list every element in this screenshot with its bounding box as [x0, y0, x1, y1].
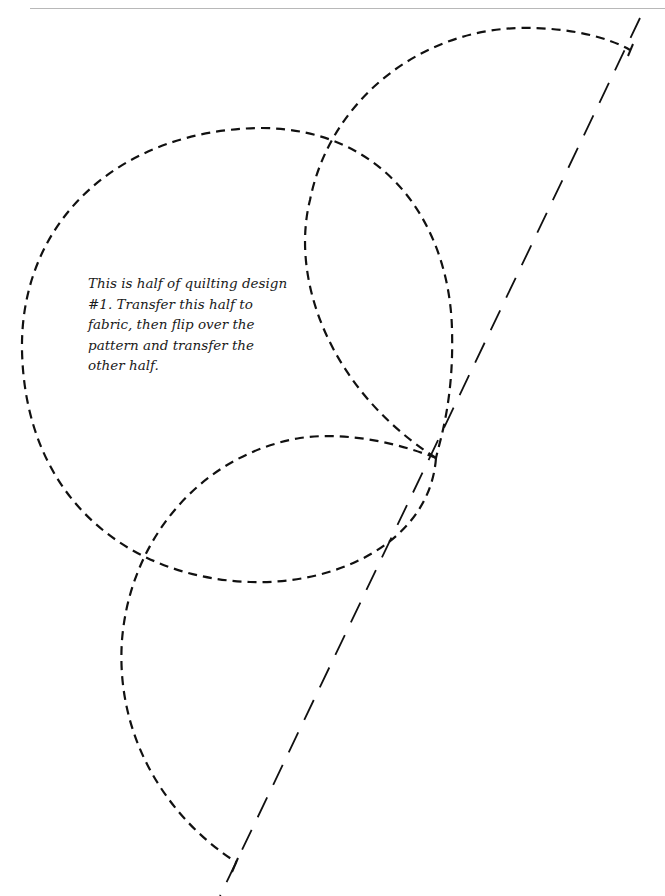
instructions-line: #1. Transfer this half to — [88, 294, 298, 315]
fold-line — [220, 18, 640, 896]
instructions-line: other half. — [88, 355, 298, 376]
instructions-text: This is half of quilting design #1. Tran… — [88, 273, 298, 376]
instructions-line: pattern and transfer the — [88, 335, 298, 356]
instructions-line: fabric, then flip over the — [88, 314, 298, 335]
quilting-pattern-diagram — [0, 0, 665, 896]
lower-arc-outline — [121, 436, 436, 862]
upper-arc-outline — [305, 28, 630, 458]
instructions-line: This is half of quilting design — [88, 273, 298, 294]
